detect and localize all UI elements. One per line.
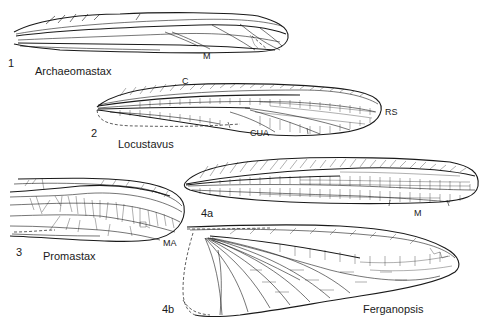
wing-drawings xyxy=(0,0,481,328)
vein-label-c-fig2: C xyxy=(182,75,189,87)
panel-number-1: 1 xyxy=(8,57,14,69)
vein-label-m-fig4a: M xyxy=(414,207,422,219)
wing-promastax xyxy=(10,178,184,241)
panel-number-2: 2 xyxy=(91,127,97,139)
vein-label-m-fig1: M xyxy=(203,50,211,62)
panel-number-4b: 4b xyxy=(162,303,174,315)
taxon-label-archaeomastax: Archaeomastax xyxy=(35,65,111,77)
wing-archaeomastax xyxy=(14,13,288,53)
vein-label-rs-fig2: RS xyxy=(385,106,398,118)
wing-venation-figure: 1 Archaeomastax M C RS CUA 2 Locustavus … xyxy=(0,0,481,328)
panel-number-4a: 4a xyxy=(201,207,213,219)
taxon-label-promastax: Promastax xyxy=(43,250,96,262)
vein-label-ma-fig3: MA xyxy=(163,237,177,249)
vein-label-cua-fig2: CUA xyxy=(250,127,269,139)
taxon-label-ferganopsis: Ferganopsis xyxy=(363,303,424,315)
panel-number-3: 3 xyxy=(16,246,22,258)
wing-locustavus xyxy=(97,84,381,136)
wing-4a xyxy=(184,158,478,206)
taxon-label-locustavus: Locustavus xyxy=(118,138,174,150)
